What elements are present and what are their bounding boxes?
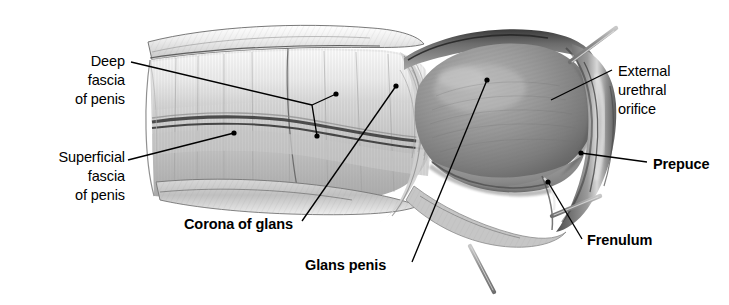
label-prepuce: Prepuce [653, 155, 710, 174]
label-glans-penis: Glans penis [305, 256, 386, 275]
label-deep-fascia-of-penis: Deep fascia of penis [10, 52, 125, 109]
label-corona-of-glans: Corona of glans [184, 215, 293, 234]
penile-shaft [146, 25, 430, 214]
label-frenulum: Frenulum [587, 231, 652, 250]
glans-penis [404, 29, 596, 194]
label-external-urethral-orifice: External urethral orifice [618, 62, 728, 119]
probe-bottom [470, 246, 494, 292]
label-superficial-fascia-of-penis: Superficial fascia of penis [0, 148, 125, 205]
anatomy-figure: Deep fascia of penis Superficial fascia … [0, 0, 729, 305]
